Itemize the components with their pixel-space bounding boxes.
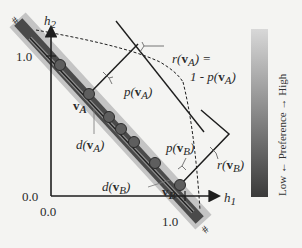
pB-annotation: p(vB)	[165, 140, 194, 157]
rA-annotation-line2: 1 - p(vA)	[190, 69, 236, 86]
h2-axis-label: h2	[44, 13, 57, 30]
rB-annotation: r(vB)	[217, 157, 244, 174]
point	[104, 112, 115, 123]
x-origin-tick-label: 0.0	[40, 204, 56, 219]
point	[55, 60, 66, 71]
preference-colorbar	[251, 29, 268, 197]
point-vB	[175, 180, 186, 191]
rA-annotation-line1: r(vA) =	[172, 51, 211, 68]
point	[150, 158, 161, 169]
y-origin-tick-label: 0.0	[22, 189, 38, 204]
x-max-tick-label: 1.0	[162, 214, 178, 229]
colorbar-label: Low ← Preference → High	[276, 73, 288, 196]
point	[116, 124, 127, 135]
band-end-mark-bottom: #	[199, 223, 212, 236]
rA-bracket	[140, 42, 164, 52]
y-max-tick-label: 1.0	[16, 49, 32, 64]
h1-axis-label: h1	[224, 190, 236, 207]
pA-annotation: p(vA)	[123, 84, 152, 101]
pB-bracket	[178, 158, 186, 170]
dB-annotation: d(vB)	[102, 179, 130, 196]
point	[129, 137, 140, 148]
dA-annotation: d(vA)	[76, 137, 104, 154]
diagram-canvas: # # h2 h1 1.0 0.0 0.0 1.0 vA vB p(vA) d(…	[0, 0, 302, 248]
point-vA	[84, 89, 95, 100]
